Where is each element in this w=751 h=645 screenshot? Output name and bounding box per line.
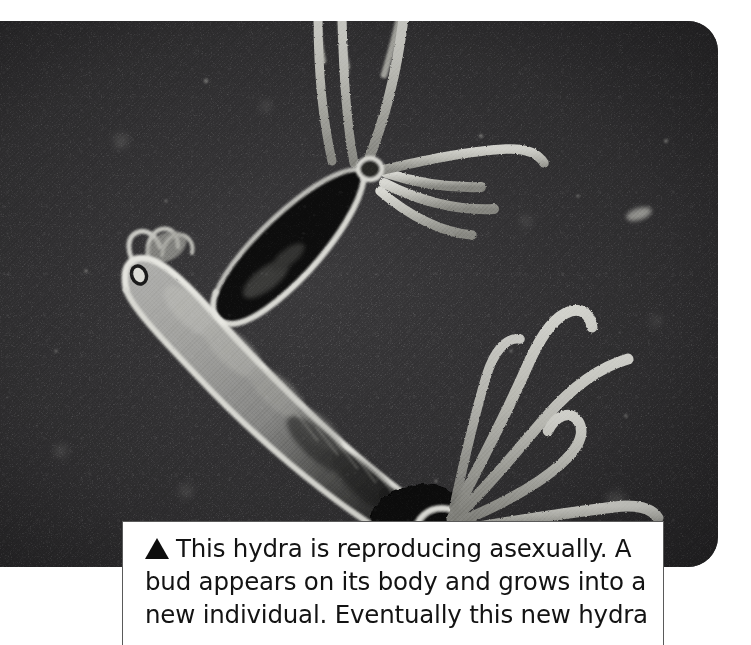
figure-root: This hydra is reproducing asexually. A b…	[0, 0, 751, 645]
figure-caption-text: This hydra is reproducing asexually. A b…	[145, 532, 645, 631]
figure-caption-box: This hydra is reproducing asexually. A b…	[122, 521, 664, 645]
caption-line-3: new individual. Eventually this new hydr…	[145, 598, 645, 631]
triangle-up-marker-icon	[145, 538, 169, 559]
hydra-photograph	[0, 21, 718, 567]
caption-line-1-text: This hydra is reproducing asexually. A	[176, 534, 631, 563]
caption-line-1: This hydra is reproducing asexually. A	[145, 532, 645, 565]
caption-line-2: bud appears on its body and grows into a	[145, 565, 645, 598]
hydra-photo-illustration	[0, 21, 718, 567]
